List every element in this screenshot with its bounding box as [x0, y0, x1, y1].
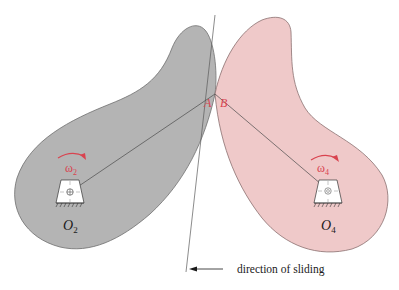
- cam-2-body: [15, 26, 216, 249]
- cam-4-body: [215, 17, 388, 252]
- pivot-o4-pin-icon: [325, 188, 331, 194]
- pivot-o2-bearing: [56, 180, 84, 207]
- point-a-label: A: [203, 96, 212, 110]
- point-b-label: B: [220, 96, 228, 110]
- pivot-o4-bearing: [314, 180, 342, 207]
- sliding-direction-arrow-icon: [189, 267, 223, 272]
- sliding-direction-caption: direction of sliding: [237, 263, 325, 276]
- cam-diagram: ω2 ω4 A B O2 O4 direction of sliding: [0, 0, 399, 290]
